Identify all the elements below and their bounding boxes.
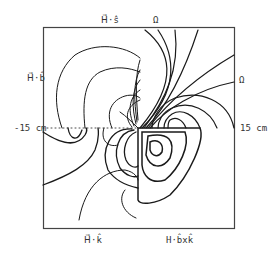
contour-plot <box>0 0 275 253</box>
